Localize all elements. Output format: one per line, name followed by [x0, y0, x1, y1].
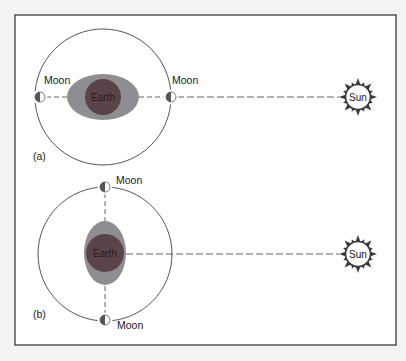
- moon-icon: [165, 91, 177, 103]
- tides-diagram: Earth Moon Moon Sun (a): [0, 0, 406, 361]
- moon-icon: [99, 181, 111, 193]
- moon-icon: [34, 91, 46, 103]
- moon-label: Moon: [172, 74, 198, 86]
- sun-label: Sun: [349, 92, 367, 103]
- moon-icon: [99, 314, 111, 326]
- moon-label: Moon: [116, 174, 142, 186]
- panel-label-b: (b): [33, 308, 46, 320]
- moon-label: Moon: [117, 319, 143, 331]
- sun-label: Sun: [349, 249, 367, 260]
- panel-label-a: (a): [33, 150, 46, 162]
- earth-label: Earth: [91, 92, 115, 103]
- figure-frame: [15, 15, 396, 345]
- moon-label: Moon: [44, 74, 70, 86]
- earth-label: Earth: [93, 248, 117, 259]
